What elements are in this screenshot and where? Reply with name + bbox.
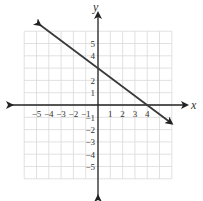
x-tick-label: 1	[108, 109, 113, 119]
y-tick-label: −3	[85, 137, 95, 147]
x-tick-label: −5	[32, 109, 42, 119]
x-tick-label: −3	[56, 109, 66, 119]
x-tick-label: 4	[145, 109, 150, 119]
x-tick-label: 3	[133, 109, 138, 119]
y-tick-label: 4	[91, 51, 96, 61]
coordinate-plane: −5−4−3−2−112345421−1−2−3−4−5 x y	[0, 0, 203, 201]
x-tick-label: −4	[44, 109, 54, 119]
y-tick-label: −5	[85, 162, 95, 172]
y-tick-label: −4	[85, 150, 95, 160]
axes	[12, 13, 187, 196]
y-tick-label: 5	[91, 39, 96, 49]
x-tick-label: −2	[69, 109, 79, 119]
y-tick-label: −1	[85, 113, 95, 123]
y-axis-label: y	[92, 0, 99, 14]
y-tick-label: 1	[91, 88, 96, 98]
y-tick-label: 2	[91, 76, 96, 86]
x-axis-label: x	[190, 98, 197, 112]
x-tick-label: 2	[120, 109, 125, 119]
y-tick-label: −2	[85, 125, 95, 135]
